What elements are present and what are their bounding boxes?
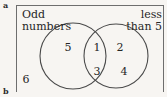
venn-element-3: 3	[91, 66, 103, 77]
set-label-right: less than 5	[126, 9, 162, 34]
venn-element-1: 1	[91, 42, 103, 53]
venn-element-6: 6	[20, 74, 32, 85]
set-label-right-line2: than 5	[126, 21, 162, 33]
venn-element-2: 2	[114, 42, 126, 53]
set-label-left: Odd numbers	[22, 9, 71, 34]
set-label-left-line2: numbers	[22, 21, 71, 33]
venn-element-4: 4	[118, 66, 130, 77]
venn-element-5: 5	[62, 42, 74, 53]
venn-diagram-figure: a b Odd numbers less than 5 512346	[0, 0, 167, 97]
